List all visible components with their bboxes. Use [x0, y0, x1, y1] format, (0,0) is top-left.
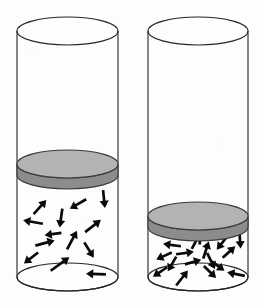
- left-cylinder-arrow-head-icon: [23, 217, 31, 226]
- left-cylinder-arrow-head-icon: [86, 269, 93, 278]
- left-cylinder-velocity-arrow: [56, 209, 65, 228]
- left-cylinder-velocity-arrow: [100, 190, 109, 208]
- right-cylinder-velocity-arrow: [156, 252, 172, 260]
- left-cylinder-arrow-shaft-icon: [29, 221, 43, 223]
- right-cylinder-arrow-shaft-icon: [176, 253, 188, 255]
- left-cylinder-arrow-head-icon: [45, 230, 53, 239]
- left-cylinder-velocity-arrow: [24, 252, 38, 263]
- right-cylinder-arrow-head-icon: [236, 241, 245, 249]
- right-cylinder-velocity-arrow: [176, 271, 188, 286]
- left-cylinder-velocity-arrow: [85, 220, 101, 232]
- right-cylinder-arrow-head-icon: [227, 269, 235, 278]
- left-cylinder-top-rim: [17, 17, 118, 45]
- left-cylinder-arrow-shaft-icon: [28, 252, 38, 260]
- left-cylinder-arrow-shaft-icon: [51, 261, 65, 271]
- right-cylinder-velocity-arrow: [153, 267, 167, 277]
- right-cylinder-arrow-shaft-icon: [203, 247, 207, 259]
- left-cylinder-arrow-shaft-icon: [84, 242, 91, 252]
- left-cylinder-arrow-shaft-icon: [103, 190, 104, 202]
- left-cylinder-arrow-shaft-icon: [67, 236, 74, 250]
- left-cylinder-arrow-shaft-icon: [60, 209, 62, 222]
- right-cylinder-arrow-shaft-icon: [223, 250, 231, 258]
- right-cylinder-arrow-shaft-icon: [176, 275, 184, 285]
- right-cylinder-velocity-arrow: [223, 246, 236, 257]
- figure-root: Two gas cylinders with pistons Two ident…: [0, 0, 262, 305]
- right-cylinder-arrow-shaft-icon: [185, 261, 196, 264]
- left-cylinder-velocity-arrow: [34, 200, 47, 214]
- right-cylinder-arrow-head-icon: [186, 248, 194, 257]
- right-cylinder-velocity-arrow: [163, 240, 181, 249]
- left-cylinder-velocity-arrow: [67, 231, 78, 250]
- left-cylinder-arrow-head-icon: [56, 220, 65, 228]
- right-cylinder: [148, 17, 248, 291]
- left-cylinder-velocity-arrow: [86, 269, 106, 278]
- right-cylinder-arrow-head-icon: [163, 240, 171, 249]
- left-cylinder-velocity-arrow: [45, 230, 62, 239]
- right-cylinder-arrow-shaft-icon: [161, 253, 171, 258]
- right-piston-top: [148, 202, 248, 230]
- left-cylinder-arrow-shaft-icon: [34, 204, 43, 214]
- left-cylinder-arrow-shaft-icon: [85, 223, 96, 232]
- left-cylinder-arrow-shaft-icon: [35, 242, 49, 246]
- left-cylinder-velocity-arrow: [23, 217, 43, 226]
- gas-cylinder-diagram: Two gas cylinders with pistons Two ident…: [0, 0, 262, 305]
- right-cylinder-top-rim: [148, 17, 248, 45]
- left-piston-top: [17, 150, 118, 178]
- right-cylinder-velocity-arrow: [185, 257, 201, 266]
- left-cylinder: [17, 17, 118, 291]
- left-cylinder-velocity-arrow: [70, 199, 86, 209]
- left-cylinder-arrow-shaft-icon: [50, 233, 61, 235]
- left-cylinder-arrow-head-icon: [100, 200, 109, 208]
- right-cylinder-arrow-shaft-icon: [233, 273, 245, 276]
- right-cylinder-velocity-arrow: [176, 248, 194, 257]
- right-cylinder-arrow-shaft-icon: [204, 266, 212, 274]
- left-cylinder-arrow-head-icon: [47, 238, 55, 247]
- left-cylinder-velocity-arrow: [35, 238, 54, 247]
- left-cylinder-base-ellipse: [17, 263, 118, 291]
- left-cylinder-arrow-shaft-icon: [75, 199, 87, 206]
- left-cylinder-velocity-arrow: [84, 242, 94, 257]
- right-cylinder-arrow-shaft-icon: [169, 245, 181, 247]
- right-cylinder-velocity-arrow: [207, 253, 216, 269]
